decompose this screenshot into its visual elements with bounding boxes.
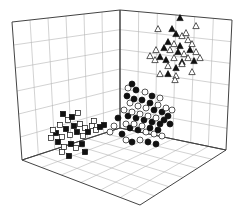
circle-marker: [129, 81, 135, 87]
circle-marker: [124, 93, 130, 99]
triangle-marker: [165, 71, 171, 77]
square-marker: [101, 122, 106, 127]
square-marker: [74, 129, 79, 134]
circle-marker: [121, 107, 127, 113]
circle-marker: [157, 95, 163, 101]
triangle-marker: [187, 47, 193, 53]
square-marker: [55, 139, 60, 144]
circle-marker: [165, 113, 171, 119]
triangle-marker: [157, 71, 163, 77]
circle-marker: [153, 115, 159, 121]
left-wall-grid-hline: [17, 69, 120, 91]
circle-marker: [139, 123, 145, 129]
triangle-marker: [175, 49, 181, 55]
data-points: [48, 15, 203, 159]
circle-marker: [137, 111, 143, 117]
circle-marker: [137, 137, 143, 143]
triangle-marker: [183, 30, 189, 36]
circle-marker: [123, 137, 129, 143]
square-marker: [91, 118, 96, 123]
triangle-marker: [189, 69, 195, 75]
circle-marker: [131, 121, 137, 127]
circle-marker: [111, 123, 117, 129]
circle-marker: [145, 113, 151, 119]
square-marker: [57, 122, 62, 127]
square-marker: [61, 144, 66, 149]
triangle-marker: [193, 23, 199, 29]
triangle-marker: [197, 55, 203, 61]
square-marker: [68, 141, 73, 146]
circle-marker: [139, 97, 145, 103]
triangle-marker: [155, 26, 161, 32]
triangle-marker: [177, 43, 183, 49]
left-wall-grid-hline: [19, 89, 120, 114]
triangle-marker: [173, 65, 179, 71]
circle-marker: [147, 125, 153, 131]
circle-marker: [107, 129, 113, 135]
series-cluster-lower-left: [48, 110, 106, 158]
triangle-marker: [161, 45, 167, 51]
square-marker: [79, 141, 84, 146]
triangle-marker: [167, 47, 173, 53]
square-marker: [77, 121, 82, 126]
floor-grid-vline: [87, 139, 197, 169]
square-marker: [75, 110, 80, 115]
square-marker: [50, 127, 55, 132]
triangle-marker: [171, 55, 177, 61]
square-marker: [80, 133, 85, 138]
circle-marker: [167, 121, 173, 127]
circle-marker: [147, 100, 153, 106]
triangle-marker: [153, 47, 159, 53]
circle-marker: [169, 107, 175, 113]
square-marker: [60, 111, 65, 116]
triangle-marker: [171, 41, 177, 47]
circle-marker: [145, 139, 151, 145]
circle-marker: [129, 139, 135, 145]
circle-marker: [129, 109, 135, 115]
square-marker: [82, 149, 87, 154]
circle-marker: [142, 89, 148, 95]
square-marker: [59, 134, 64, 139]
circle-marker: [115, 115, 121, 121]
circle-marker: [159, 133, 165, 139]
circle-marker: [143, 105, 149, 111]
square-marker: [63, 126, 68, 131]
square-marker: [85, 129, 90, 134]
square-marker: [67, 132, 72, 137]
square-marker: [48, 135, 53, 140]
circle-marker: [163, 105, 169, 111]
triangle-marker: [165, 39, 171, 45]
square-marker: [69, 114, 74, 119]
circle-marker: [153, 141, 159, 147]
3d-scatter-plot: [0, 0, 245, 218]
square-marker: [71, 123, 76, 128]
triangle-marker: [173, 73, 179, 79]
series-cluster-center: [107, 81, 175, 147]
square-marker: [59, 149, 64, 154]
circle-marker: [149, 93, 155, 99]
circle-marker: [131, 96, 137, 102]
square-marker: [73, 145, 78, 150]
circle-marker: [151, 107, 157, 113]
left-wall: [12, 10, 120, 160]
circle-marker: [133, 87, 139, 93]
triangle-marker: [163, 57, 169, 63]
circle-marker: [155, 102, 161, 108]
circle-marker: [119, 131, 125, 137]
circle-marker: [155, 127, 161, 133]
triangle-marker: [181, 51, 187, 57]
square-marker: [66, 153, 71, 158]
triangle-marker: [169, 26, 175, 32]
circle-marker: [135, 103, 141, 109]
triangle-marker: [165, 63, 171, 69]
